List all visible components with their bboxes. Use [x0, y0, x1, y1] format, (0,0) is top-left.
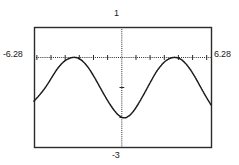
y-max-label: 1 [114, 8, 119, 18]
plot-canvas [0, 0, 239, 165]
x-max-label: 6.28 [214, 49, 231, 59]
y-min-label: -3 [112, 150, 120, 160]
x-min-label: -6.28 [3, 49, 23, 59]
graph-screen: 1 -3 -6.28 6.28 [0, 0, 239, 165]
